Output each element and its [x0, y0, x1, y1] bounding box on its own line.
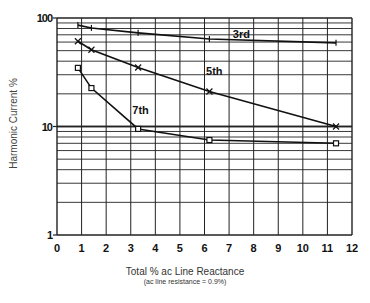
- y-tick-label: 100: [37, 12, 53, 24]
- series-5th-line: [78, 41, 336, 126]
- x-tick-label: 10: [297, 242, 309, 254]
- x-tick-label: 2: [103, 242, 109, 254]
- x-tick-label: 1: [79, 242, 85, 254]
- x-tick-label: 6: [201, 242, 207, 254]
- x-axis-label: Total % ac Line Reactance: [0, 266, 370, 277]
- axis-ticks: 0123456789101112110100: [37, 12, 358, 254]
- series-7th-line: [78, 68, 336, 143]
- x-tick-label: 5: [177, 242, 183, 254]
- series-3rd-line: [78, 25, 336, 43]
- y-tick-label: 10: [42, 121, 53, 133]
- x-tick-label: 9: [275, 242, 281, 254]
- y-axis-label: Harmonic Current %: [8, 69, 19, 179]
- x-tick-label: 8: [251, 242, 257, 254]
- x-tick-label: 12: [346, 242, 358, 254]
- series-lines: [75, 22, 339, 146]
- x-tick-label: 7: [226, 242, 232, 254]
- x-tick-label: 4: [152, 242, 159, 254]
- series-label-7th: 7th: [132, 104, 149, 116]
- series-label-5th: 5th: [206, 65, 223, 77]
- x-tick-label: 0: [54, 242, 60, 254]
- x-axis-note: (ac line resistance = 0.9%): [0, 278, 370, 285]
- y-tick-label: 1: [47, 229, 53, 241]
- x-tick-label: 11: [322, 242, 334, 254]
- x-tick-label: 3: [128, 242, 134, 254]
- series-label-3rd: 3rd: [233, 28, 250, 40]
- grid: [57, 18, 352, 235]
- harmonic-current-chart: 0123456789101112110100 3rd5th7th: [0, 0, 370, 303]
